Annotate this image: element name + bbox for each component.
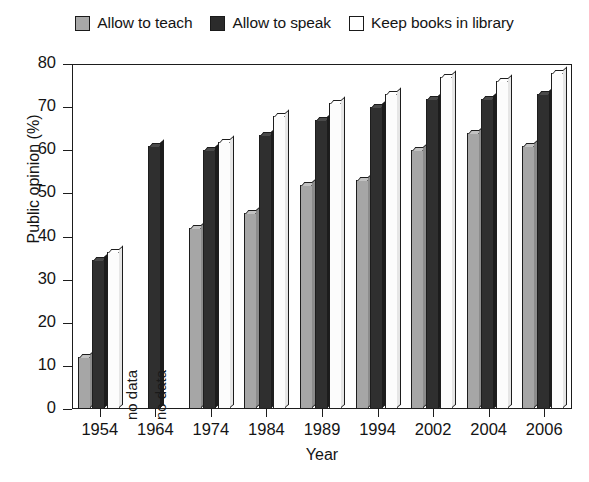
bar [78, 357, 91, 409]
bar [440, 77, 453, 409]
bar [496, 81, 509, 409]
legend-item-label: Allow to speak [232, 14, 331, 32]
x-axis-tick-label: 1989 [304, 420, 341, 439]
legend-swatch-icon [75, 16, 90, 31]
bar [329, 103, 342, 409]
bar [426, 99, 439, 410]
y-axis-tick-label: 70 [38, 96, 56, 115]
bar-side-face [508, 75, 512, 408]
y-axis-tick: 60 [63, 150, 72, 151]
bar [385, 94, 398, 409]
x-axis-tick [378, 409, 379, 417]
x-axis-tick-label: 2006 [526, 420, 563, 439]
legend-swatch-icon [349, 16, 364, 31]
y-axis-tick: 50 [63, 193, 72, 194]
bar [315, 120, 328, 409]
chart-legend: Allow to teachAllow to speakKeep books i… [0, 8, 589, 38]
bar [411, 150, 424, 409]
x-axis-tick [322, 409, 323, 417]
x-axis-tick [544, 409, 545, 417]
bar [467, 133, 480, 409]
y-axis-tick: 30 [63, 280, 72, 281]
y-axis-tick: 40 [63, 237, 72, 238]
legend-item: Allow to speak [210, 14, 331, 32]
no-data-label: no data [152, 370, 169, 420]
bar [244, 213, 257, 409]
y-axis-tick-label: 0 [47, 398, 56, 417]
bar [273, 116, 286, 409]
legend-item: Keep books in library [349, 14, 514, 32]
y-axis-tick: 10 [63, 366, 72, 367]
plot-area: 01020304050607080 1954196419741984198919… [72, 64, 572, 409]
y-axis-tick-label: 40 [38, 226, 56, 245]
x-axis-tick [489, 409, 490, 417]
bar [551, 73, 564, 409]
y-axis-tick-label: 80 [38, 53, 56, 72]
y-axis-tick-label: 60 [38, 139, 56, 158]
legend-item-label: Allow to teach [97, 14, 192, 32]
x-axis-tick [211, 409, 212, 417]
no-data-marker: no data [162, 64, 175, 409]
y-axis-tick: 20 [63, 323, 72, 324]
x-axis-tick-label: 2002 [415, 420, 452, 439]
y-axis-tick: 0 [63, 409, 72, 410]
x-axis-tick-label: 1954 [81, 420, 118, 439]
bar [522, 146, 535, 409]
x-axis-tick [433, 409, 434, 417]
bar-side-face [563, 66, 567, 408]
x-axis-tick [100, 409, 101, 417]
x-axis-tick-label: 1984 [248, 420, 285, 439]
x-axis-tick [266, 409, 267, 417]
bar [370, 107, 383, 409]
bar [259, 135, 272, 409]
legend-item: Allow to teach [75, 14, 192, 32]
bar [92, 260, 105, 409]
no-data-marker: no data [133, 64, 146, 409]
bar [218, 142, 231, 409]
bar-side-face [452, 70, 456, 408]
y-axis-tick-label: 10 [38, 355, 56, 374]
y-axis-tick: 70 [63, 107, 72, 108]
bar-side-face [397, 88, 401, 408]
legend-item-label: Keep books in library [371, 14, 514, 32]
x-axis-tick-label: 1964 [137, 420, 174, 439]
no-data-label: no data [123, 370, 140, 420]
y-axis-tick-label: 50 [38, 182, 56, 201]
bar [203, 150, 216, 409]
bar-chart-figure: Allow to teachAllow to speakKeep books i… [0, 0, 589, 482]
y-axis-tick-label: 20 [38, 312, 56, 331]
x-axis-tick-label: 1994 [359, 420, 396, 439]
bar [107, 252, 120, 409]
y-axis-tick: 80 [63, 64, 72, 65]
bar [537, 94, 550, 409]
x-axis-tick-label: 1974 [193, 420, 230, 439]
bar [481, 99, 494, 410]
bar-side-face [230, 135, 234, 408]
bar-side-face [285, 109, 289, 408]
bar [356, 180, 369, 409]
bar-side-face [341, 96, 345, 408]
bar [300, 185, 313, 409]
bar [189, 228, 202, 409]
x-axis-title: Year [72, 446, 572, 464]
legend-swatch-icon [210, 16, 225, 31]
y-axis-tick-label: 30 [38, 269, 56, 288]
x-axis-tick-label: 2004 [470, 420, 507, 439]
